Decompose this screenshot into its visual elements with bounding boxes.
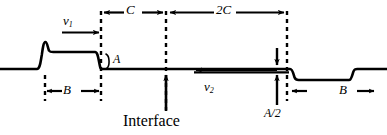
label-interface: Interface (123, 113, 180, 129)
label-b-left: B (63, 83, 71, 96)
label-amplitude-a: A (113, 53, 120, 65)
label-amplitude-a-half: A/2 (264, 107, 281, 119)
label-b-right: B (339, 83, 347, 96)
label-2c-segment: 2C (216, 3, 231, 16)
label-v1: v1 (63, 14, 73, 29)
a-amplitude-bracket (106, 54, 109, 69)
wave-interface-figure: v1 v2 C 2C A A/2 B B Interface (0, 0, 387, 135)
label-v2: v2 (204, 80, 214, 95)
label-c-segment: C (126, 3, 135, 16)
waveform-canvas (0, 0, 387, 135)
incident-transmitted-waveform (0, 42, 387, 80)
